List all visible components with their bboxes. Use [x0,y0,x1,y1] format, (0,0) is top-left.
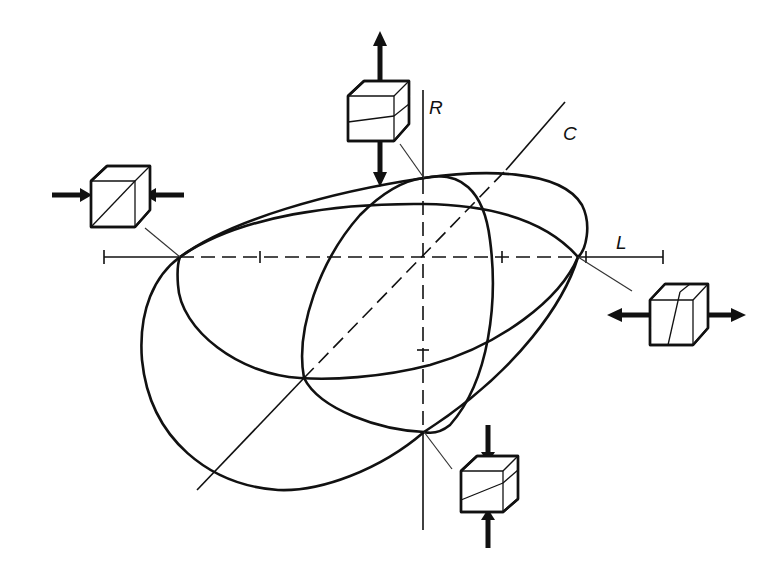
vertical-ellipse-curve [302,176,493,433]
outer-envelope-curve [141,173,587,490]
leader-right [578,257,632,291]
leader-bottom [424,432,452,469]
leader-left [145,228,180,257]
specimen-left-compression [52,166,184,227]
failure-envelope-diagram: R C L [0,0,780,564]
axis-label-l: L [616,232,627,253]
specimen-top-tension [348,31,409,187]
leader-top [400,144,424,178]
specimen-bottom-compression [461,425,518,548]
axis-label-r: R [429,97,443,118]
axis-label-c: C [563,123,577,144]
specimen-right-tension [607,284,746,345]
vertical-axis-r [417,90,429,530]
